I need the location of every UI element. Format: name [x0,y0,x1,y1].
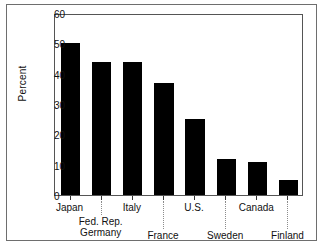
x-tick-label-line2: Germany [79,227,123,238]
y-tick-label: 10 [54,160,68,171]
plot-area [54,14,303,196]
x-tick-label: Finland [271,230,304,241]
x-tick-label: Italy [123,202,141,213]
y-axis-label: Percent [17,44,28,124]
bar-series [55,15,302,195]
x-tick-label: Japan [56,202,83,213]
y-tick-label: 20 [54,130,68,141]
x-tick-label: Canada [239,202,274,213]
x-tick-label-line1: Italy [123,202,141,213]
bar [154,83,173,195]
x-tick-label-line1: Japan [56,202,83,213]
x-tick-mark [225,196,226,200]
x-tick-mark [132,196,133,200]
x-tick-label: U.S. [184,202,203,213]
bar [123,62,142,195]
bar [185,119,204,195]
x-tick-mark [163,196,164,200]
bar [248,162,267,195]
bar [279,180,298,195]
label-leader-line [163,201,164,229]
y-tick-label: 50 [54,39,68,50]
x-tick-label: Sweden [207,230,243,241]
bar [217,159,236,195]
label-leader-line [287,201,288,229]
x-tick-label-line1: Canada [239,202,274,213]
x-tick-mark [101,196,102,200]
x-tick-mark [287,196,288,200]
x-tick-label-line1: Sweden [207,230,243,241]
x-tick-label-line1: Fed. Rep. [79,216,123,227]
x-tick-label: Fed. Rep.Germany [79,216,123,238]
bar [92,62,111,195]
x-tick-mark [194,196,195,200]
label-leader-line [101,201,102,215]
x-tick-label-line1: Finland [271,230,304,241]
y-tick-label: 40 [54,69,68,80]
x-tick-mark [70,196,71,200]
x-tick-label-line1: France [147,230,178,241]
x-tick-label: France [147,230,178,241]
x-tick-mark [256,196,257,200]
y-tick-label: 30 [54,100,68,111]
y-tick-label: 60 [54,9,68,20]
chart-figure: Percent 0102030405060 JapanFed. Rep.Germ… [0,0,324,246]
x-tick-label-line1: U.S. [184,202,203,213]
bar [61,43,80,195]
label-leader-line [225,201,226,229]
y-tick-label: 0 [54,191,63,202]
